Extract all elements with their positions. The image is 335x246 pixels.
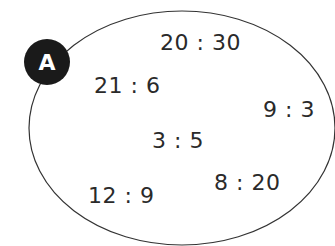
badge-letter: A xyxy=(38,50,55,75)
ratio-ellipse-diagram: A 20 : 30 21 : 6 9 : 3 3 : 5 8 : 20 12 :… xyxy=(0,0,335,246)
ratio-item: 12 : 9 xyxy=(88,183,154,208)
ratio-item: 8 : 20 xyxy=(214,170,280,195)
ratio-item: 9 : 3 xyxy=(263,97,315,122)
label-badge-a: A xyxy=(24,39,70,85)
ratio-item: 20 : 30 xyxy=(160,30,241,55)
ratio-item: 21 : 6 xyxy=(94,73,160,98)
ratio-item: 3 : 5 xyxy=(152,128,204,153)
